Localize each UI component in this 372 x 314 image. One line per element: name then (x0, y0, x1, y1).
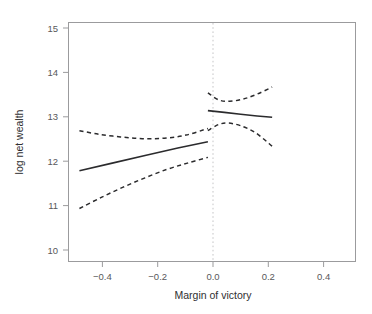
y-tick-label-13: 13 (47, 111, 58, 122)
x-tick-label-neg04: −0.4 (93, 271, 112, 282)
y-tick-label-14: 14 (47, 67, 58, 78)
y-tick-label-11: 11 (48, 200, 58, 211)
x-axis-ticks (102, 262, 323, 267)
y-axis-title: log net wealth (13, 109, 25, 174)
x-tick-label-pos02: 0.2 (262, 271, 275, 282)
x-tick-label-pos04: 0.4 (317, 271, 330, 282)
plot-panel-border (69, 23, 356, 262)
chart-plot-area: 15 14 13 12 11 10 −0.4 −0.2 0.0 0.2 0.4 … (0, 0, 372, 314)
y-tick-label-10: 10 (47, 245, 58, 256)
y-tick-label-12: 12 (47, 156, 58, 167)
x-axis-title: Margin of victory (174, 289, 252, 301)
y-tick-label-15: 15 (47, 23, 58, 34)
y-axis-ticks (63, 28, 68, 250)
x-tick-label-zero: 0.0 (206, 271, 219, 282)
x-tick-label-neg02: −0.2 (148, 271, 167, 282)
chart-figure: 15 14 13 12 11 10 −0.4 −0.2 0.0 0.2 0.4 … (0, 0, 372, 314)
